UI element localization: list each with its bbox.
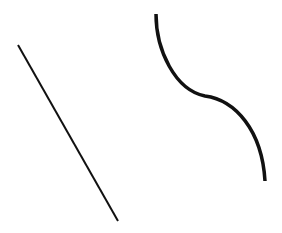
diagram-canvas (0, 0, 282, 233)
